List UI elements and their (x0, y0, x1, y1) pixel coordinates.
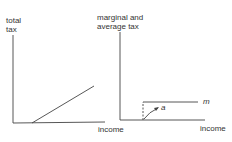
total-tax-line (32, 86, 94, 123)
arrowhead-icon (154, 107, 159, 111)
average-label: a (161, 103, 165, 112)
left-y-label-2: tax (6, 25, 17, 34)
left-x-axis (13, 122, 105, 123)
left-y-label-1: total (6, 16, 21, 25)
right-y-label-1: marginal and (97, 13, 143, 22)
left-x-label: income (98, 125, 124, 134)
right-y-label-2: average tax (97, 22, 139, 31)
marginal-label: m (203, 97, 210, 106)
right-x-label: income (200, 124, 226, 133)
